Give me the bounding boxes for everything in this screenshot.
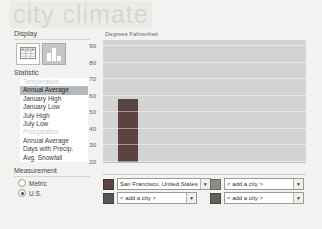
us-radio-label: U.S. [29,190,42,197]
city-selector-4: < add a city > ▼ [210,192,304,204]
gridline [103,111,306,112]
y-tick-label: 20 [80,159,96,165]
city-climate-app: city climate Display [0,0,322,229]
city-swatch [210,179,221,190]
chevron-down-icon[interactable]: ▼ [200,179,210,189]
city-select-value: < add a city > [225,195,293,201]
statistic-item-july-low[interactable]: July Low [20,120,88,128]
gridline [103,161,306,162]
statistic-section-label: Statistic [14,69,90,78]
statistic-item-days-with-precip[interactable]: Days with Precip. [20,145,88,153]
chart-y-axis: 9080706050403020 [80,46,98,162]
statistic-group-precipitation: Precipitation [20,128,88,136]
chart-scale [103,46,306,162]
city-select[interactable]: < add a city > ▼ [224,178,304,190]
city-select[interactable]: San Francisco, United States ▼ [117,178,211,190]
city-select-value: < add a city > [118,195,186,201]
y-tick-label: 40 [80,126,96,132]
chevron-down-icon[interactable]: ▼ [293,179,303,189]
city-selector-3: < add a city > ▼ [103,192,197,204]
table-icon [20,47,36,62]
us-radio[interactable]: U.S. [18,189,42,197]
gridline [103,62,306,63]
y-tick-label: 50 [80,109,96,115]
chart-view-button[interactable] [42,43,66,65]
bar-chart-icon [47,47,61,61]
display-mode-switch [16,43,66,65]
city-selector-2: < add a city > ▼ [210,178,304,190]
city-select-value: < add a city > [225,181,293,187]
gridline [103,45,306,46]
radio-circle-icon[interactable] [18,179,26,187]
gridline [103,128,306,129]
city-select[interactable]: < add a city > ▼ [117,192,197,204]
city-swatch [103,193,114,204]
chevron-down-icon[interactable]: ▼ [186,193,196,203]
metric-radio[interactable]: Metric [18,179,47,187]
chart-footer-divider [103,174,306,175]
statistic-list: Temperature Annual Average January High … [20,78,88,162]
statistic-item-january-high[interactable]: January High [20,95,88,103]
statistic-item-annual-average-precip[interactable]: Annual Average [20,137,88,145]
statistic-group-temperature: Temperature [20,78,88,86]
chevron-down-icon[interactable]: ▼ [293,193,303,203]
measurement-section-label: Measurement [14,167,90,177]
display-section-label: Display [14,30,90,40]
y-tick-label: 60 [80,93,96,99]
city-selector-1: San Francisco, United States ▼ [103,178,197,190]
gridline [103,95,306,96]
page-title: city climate [10,1,152,28]
chart-axis-title: Degrees Fahrenheit [105,31,158,37]
gridline [103,78,306,79]
temperature-bar [118,99,138,162]
gridline [103,144,306,145]
y-tick-label: 70 [80,76,96,82]
y-tick-label: 30 [80,142,96,148]
statistic-item-january-low[interactable]: January Low [20,103,88,111]
city-selectors: San Francisco, United States ▼ < add a c… [103,178,304,204]
radio-circle-selected-icon[interactable] [18,189,26,197]
statistic-item-avg-snowfall[interactable]: Avg. Snowfall [20,154,88,162]
table-view-button[interactable] [16,43,40,65]
y-tick-label: 90 [80,43,96,49]
metric-radio-label: Metric [29,180,47,187]
city-select[interactable]: < add a city > ▼ [224,192,304,204]
y-tick-label: 80 [80,60,96,66]
city-select-value: San Francisco, United States [118,181,200,187]
statistic-item-annual-average-temp[interactable]: Annual Average [20,86,88,94]
city-swatch [210,193,221,204]
city-swatch [103,179,114,190]
chart-plot-area [103,40,306,163]
statistic-item-july-high[interactable]: July High [20,112,88,120]
